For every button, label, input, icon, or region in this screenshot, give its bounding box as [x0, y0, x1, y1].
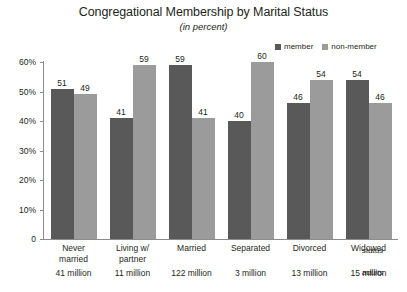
- category-line-2: married: [44, 254, 103, 265]
- bar-value-label: 60: [257, 51, 266, 61]
- x-axis-category-label: Widowed: [339, 243, 398, 254]
- bar-non-member[interactable]: 60: [251, 62, 274, 239]
- bar-value-label: 46: [375, 92, 384, 102]
- chart-container: Congregational Membership by Marital Sta…: [0, 0, 407, 292]
- legend-swatch-icon: [322, 44, 328, 50]
- bar-group: 4654: [287, 62, 333, 239]
- bar-non-member[interactable]: 59: [133, 65, 156, 239]
- category-line-1: Widowed: [339, 243, 398, 254]
- category-line-1: Separated: [221, 243, 280, 254]
- x-axis-line: [43, 239, 398, 240]
- x-axis-category-label: Nevermarried: [44, 243, 103, 264]
- plot-area: 010%20%30%40%50%60%514941595941406046545…: [44, 62, 398, 239]
- bar-value-label: 41: [198, 107, 207, 117]
- bar-group: 4060: [228, 62, 274, 239]
- bar-member[interactable]: 59: [169, 65, 192, 239]
- legend-label: member: [284, 42, 313, 52]
- category-count-label: 3 million: [221, 268, 280, 279]
- y-axis-tick-label: 50%: [2, 87, 36, 96]
- legend-label: non-member: [331, 42, 376, 52]
- x-axis-category-label: Separated: [221, 243, 280, 254]
- bar-non-member[interactable]: 46: [369, 103, 392, 239]
- bar-member[interactable]: 51: [51, 89, 74, 239]
- bar-value-label: 49: [80, 83, 89, 93]
- category-count-label: 122 million: [162, 268, 221, 279]
- chart-subtitle: (in percent): [0, 21, 407, 33]
- bar-member[interactable]: 40: [228, 121, 251, 239]
- bar-member[interactable]: 46: [287, 103, 310, 239]
- x-axis-category-label: Living w/partner: [103, 243, 162, 264]
- y-axis-tick-label: 0: [2, 235, 36, 244]
- bar-value-label: 59: [139, 54, 148, 64]
- category-count-label: 13 million: [280, 268, 339, 279]
- bar-value-label: 46: [293, 92, 302, 102]
- y-axis-tick-label: 30%: [2, 146, 36, 155]
- bar-member[interactable]: 41: [110, 118, 133, 239]
- y-axis-tick-mark: [40, 239, 44, 240]
- category-line-1: Living w/: [103, 243, 162, 254]
- category-count-label: 15 million: [339, 268, 398, 279]
- bar-value-label: 54: [352, 69, 361, 79]
- legend-item-member[interactable]: member: [275, 42, 313, 52]
- category-line-2: partner: [103, 254, 162, 265]
- bar-value-label: 54: [316, 69, 325, 79]
- legend-swatch-icon: [275, 44, 281, 50]
- x-axis-category-label: Divorced: [280, 243, 339, 254]
- bar-member[interactable]: 54: [346, 80, 369, 239]
- bar-non-member[interactable]: 54: [310, 80, 333, 239]
- category-count-label: 41 million: [44, 268, 103, 279]
- category-line-1: Never: [44, 243, 103, 254]
- y-axis-tick-label: 20%: [2, 176, 36, 185]
- bar-group: 5941: [169, 62, 215, 239]
- category-line-1: Divorced: [280, 243, 339, 254]
- bar-value-label: 41: [116, 107, 125, 117]
- bar-value-label: 59: [175, 54, 184, 64]
- bar-group: 4159: [110, 62, 156, 239]
- y-axis-tick-label: 10%: [2, 205, 36, 214]
- x-axis-category-label: Married: [162, 243, 221, 254]
- bar-value-label: 51: [57, 78, 66, 88]
- bar-non-member[interactable]: 49: [74, 94, 97, 239]
- bar-group: 5149: [51, 62, 97, 239]
- chart-title: Congregational Membership by Marital Sta…: [0, 5, 407, 20]
- chart-legend: membernon-member: [275, 41, 377, 53]
- category-line-1: Married: [162, 243, 221, 254]
- y-axis-tick-label: 60%: [2, 58, 36, 67]
- category-count-label: 11 million: [103, 268, 162, 279]
- bar-non-member[interactable]: 41: [192, 118, 215, 239]
- legend-item-non-member[interactable]: non-member: [322, 42, 376, 52]
- bar-group: 5446: [346, 62, 392, 239]
- bar-value-label: 40: [234, 110, 243, 120]
- y-axis-tick-label: 40%: [2, 117, 36, 126]
